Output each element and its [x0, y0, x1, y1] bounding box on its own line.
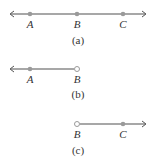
label-a: A	[26, 73, 34, 85]
label-b: B	[74, 73, 81, 85]
label-c: C	[119, 128, 127, 140]
point-a	[28, 12, 33, 17]
diagram-a-line: A B C (a)	[10, 11, 146, 47]
label-c: C	[119, 18, 127, 30]
label-a: A	[26, 18, 34, 30]
caption-a: (a)	[72, 34, 85, 47]
point-a	[28, 67, 33, 72]
point-c	[121, 122, 126, 127]
label-b: B	[74, 18, 81, 30]
geometry-figure: A B C (a) A B (b) B C (c)	[0, 0, 155, 165]
caption-c: (c)	[72, 144, 85, 157]
diagram-b-ray: A B (b)	[10, 66, 85, 101]
point-b-open	[75, 67, 80, 72]
point-c	[121, 12, 126, 17]
point-b-open	[75, 122, 80, 127]
point-b	[75, 12, 80, 17]
diagram-c-ray: B C (c)	[72, 121, 146, 157]
caption-b: (b)	[72, 88, 85, 101]
label-b: B	[74, 128, 81, 140]
